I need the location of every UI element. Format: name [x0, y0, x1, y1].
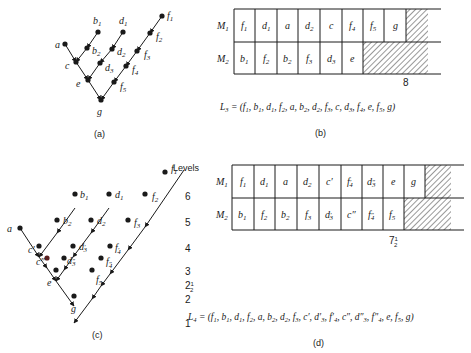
svg-text:f3: f3: [134, 217, 141, 230]
svg-text:b1: b1: [80, 189, 89, 202]
svg-text:4: 4: [185, 243, 191, 254]
figure-canvas: f1 f2 f3 f4 f5 b1 b2 d1 d2 d3 a c e g (a…: [0, 0, 471, 353]
svg-text:c″: c″: [347, 209, 356, 220]
svg-text:c′: c′: [28, 244, 35, 255]
svg-text:e: e: [76, 78, 81, 89]
svg-text:d1: d1: [262, 20, 271, 33]
svg-text:f″4: f″4: [368, 209, 375, 222]
svg-text:f5: f5: [370, 20, 377, 33]
svg-text:f′4: f′4: [115, 242, 121, 256]
svg-text:M2: M2: [215, 209, 228, 222]
svg-text:b2: b2: [92, 45, 101, 58]
svg-text:f4: f4: [349, 20, 356, 33]
panel-c-graph: [20, 170, 184, 323]
svg-text:f4: f4: [132, 64, 139, 77]
panel-d-end-marker: 712: [389, 235, 399, 248]
svg-text:d3: d3: [105, 62, 114, 75]
svg-text:f3: f3: [144, 49, 151, 62]
svg-text:212: 212: [185, 280, 195, 293]
svg-text:3: 3: [185, 266, 191, 277]
panel-b-list: L3 = (f1, b1, d1, f2, a, b2, d2, f3, c, …: [219, 102, 395, 113]
panel-d-list: L4 = (f1, b1, d1, f2, a, b2, d2, f3, c′,…: [187, 312, 414, 323]
svg-text:d2: d2: [117, 46, 126, 59]
svg-text:M1: M1: [215, 176, 228, 189]
svg-text:d″3: d″3: [367, 176, 376, 189]
svg-text:b2: b2: [63, 215, 72, 228]
svg-text:d3: d3: [327, 53, 336, 66]
svg-text:f′4: f′4: [347, 176, 353, 189]
svg-text:M1: M1: [216, 20, 229, 33]
svg-text:g: g: [393, 20, 398, 31]
svg-text:b1: b1: [238, 209, 247, 222]
svg-text:f1: f1: [240, 176, 246, 189]
svg-text:6: 6: [185, 191, 191, 202]
panel-c-nodes: [17, 169, 167, 298]
svg-text:e: e: [391, 176, 396, 187]
panel-c-caption: (c): [92, 330, 103, 340]
panel-a-labels: f1 f2 f3 f4 f5 b1 b2 d1 d2 d3 a c e g: [55, 10, 173, 117]
levels-title: Levels: [173, 163, 200, 173]
panel-b-end-marker: 8: [403, 77, 409, 88]
panel-a-caption: (a): [94, 129, 105, 139]
svg-text:g: g: [71, 303, 76, 314]
svg-text:d1: d1: [115, 189, 124, 202]
svg-text:f2: f2: [152, 191, 159, 204]
svg-text:f″4: f″4: [106, 256, 113, 270]
svg-text:f5: f5: [120, 81, 127, 94]
svg-text:d1: d1: [260, 176, 269, 189]
svg-text:d1: d1: [119, 15, 128, 28]
svg-text:g: g: [97, 106, 102, 117]
svg-text:b2: b2: [283, 53, 292, 66]
svg-text:c: c: [65, 60, 70, 71]
svg-text:c: c: [329, 20, 334, 31]
svg-text:a: a: [55, 39, 60, 50]
svg-text:b2: b2: [281, 209, 290, 222]
svg-text:d2: d2: [305, 20, 314, 33]
svg-text:d″3: d″3: [67, 255, 76, 268]
svg-text:c″: c″: [36, 256, 45, 267]
svg-text:f1: f1: [241, 20, 247, 33]
svg-text:f2: f2: [261, 209, 268, 222]
panel-d-labels: M1 M2 f1 d1 a d2 c′ f′4 d″3 e g b1 f2 b2…: [215, 176, 416, 222]
svg-text:M2: M2: [216, 53, 229, 66]
svg-text:a: a: [283, 176, 288, 187]
svg-text:f3: f3: [306, 53, 313, 66]
svg-text:2: 2: [185, 294, 191, 305]
svg-text:f5: f5: [389, 209, 396, 222]
svg-text:f2: f2: [263, 53, 270, 66]
svg-text:d2: d2: [97, 215, 106, 228]
svg-text:b1: b1: [93, 15, 102, 28]
svg-text:e: e: [350, 53, 355, 64]
svg-text:c′: c′: [326, 176, 333, 187]
svg-text:d′3: d′3: [325, 209, 334, 222]
svg-text:b1: b1: [240, 53, 249, 66]
svg-text:e: e: [47, 277, 52, 288]
panel-b-caption: (b): [315, 128, 326, 138]
svg-text:d′3: d′3: [79, 241, 88, 254]
svg-text:f3: f3: [305, 209, 312, 222]
svg-text:a: a: [285, 20, 290, 31]
svg-text:g: g: [411, 176, 416, 187]
panel-d-caption: (d): [313, 338, 324, 348]
svg-text:f5: f5: [96, 274, 103, 287]
svg-text:f1: f1: [167, 10, 173, 23]
svg-text:d2: d2: [303, 176, 312, 189]
svg-text:a: a: [7, 223, 12, 234]
svg-text:5: 5: [185, 217, 191, 228]
panel-c-labels: f1 f2 f3 f′4 f″4 f5 b1 b2 d1 d2 d′3 d″3 …: [7, 163, 177, 314]
svg-text:f2: f2: [156, 31, 163, 44]
levels-axis: Levels 6 5 4 3 212 2 1: [173, 163, 200, 329]
